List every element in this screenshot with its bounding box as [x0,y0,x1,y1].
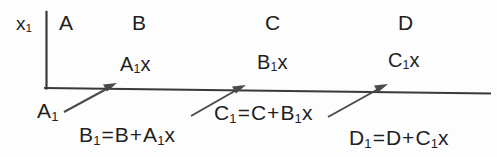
equation-c1-lhs-base: C [214,101,229,124]
product-c1x-base: C [388,49,402,71]
equation-b1: B1=B+A1x [79,124,175,145]
product-a1x-base: A [120,53,133,75]
equation-d1-lhs-sub: 1 [364,136,372,151]
equation-b1-term2-base: A [143,123,157,146]
equation-c1-lhs-sub: 1 [229,111,237,126]
product-c1x: C1x [388,50,420,70]
product-b1x-sub: 1 [270,60,277,74]
equation-b1-equals: = [101,123,115,146]
horizontal-rule-line [45,88,490,94]
product-a1x: A1x [120,54,150,74]
equation-d1-term2-tail: x [438,126,449,149]
equation-b1-term1: B [115,123,129,146]
equation-d1-lhs-base: D [349,126,364,149]
equation-d1-plus: + [401,126,415,149]
arrow-c1-to-c1x [328,84,388,117]
equation-c1-equals: = [237,101,251,124]
equation-b1-plus: + [129,123,143,146]
product-b1x: B1x [257,52,287,72]
carry-a1-sub: 1 [51,109,59,124]
horner-scheme-figure: x1 A B C D A1x B1x C1x A1 B1=B+A1x C1=C+… [0,0,497,157]
equation-b1-lhs-sub: 1 [93,133,101,148]
equation-b1-lhs-base: B [79,123,93,146]
product-a1x-tail: x [140,53,150,75]
carry-a1-base: A [37,99,51,122]
column-header-c: C [265,12,280,33]
equation-d1: D1=D+C1x [349,127,449,148]
product-a1x-sub: 1 [133,62,140,76]
product-c1x-sub: 1 [402,58,409,72]
equation-c1-term1: C [251,101,266,124]
equation-c1: C1=C+B1x [214,102,312,123]
equation-d1-term2-base: C [415,126,430,149]
carry-a1: A1 [37,100,59,121]
equation-c1-plus: + [266,101,280,124]
product-b1x-tail: x [277,51,287,73]
axis-label-x1: x1 [16,14,32,33]
equation-b1-term2-sub: 1 [157,133,165,148]
column-header-b: B [132,12,146,33]
equation-b1-term2-tail: x [165,123,176,146]
column-header-d: D [398,12,413,33]
product-b1x-base: B [257,51,270,73]
equation-d1-term1: D [386,126,401,149]
equation-c1-term2-tail: x [302,101,313,124]
equation-c1-term2-base: B [280,101,294,124]
column-header-a: A [59,12,73,33]
equation-c1-term2-sub: 1 [294,111,302,126]
equation-d1-term2-sub: 1 [431,136,439,151]
axis-label-base: x [16,13,26,34]
axis-label-sub: 1 [26,21,33,34]
equation-d1-equals: = [372,126,386,149]
product-c1x-tail: x [410,49,420,71]
